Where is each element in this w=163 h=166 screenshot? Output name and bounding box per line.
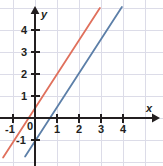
x-tick-label-2: 2 bbox=[76, 124, 82, 135]
y-tick-label-2: 2 bbox=[21, 69, 27, 80]
origin-label: 0 bbox=[27, 121, 33, 132]
y-tick-label-neg1: -1 bbox=[16, 135, 26, 146]
x-tick-label-1: 1 bbox=[54, 124, 60, 135]
x-tick-label-4: 4 bbox=[120, 124, 126, 135]
y-axis-name: y bbox=[41, 9, 47, 20]
y-tick-label-4: 4 bbox=[21, 25, 27, 36]
y-tick-label-3: 3 bbox=[21, 47, 27, 58]
y-tick-label-1: 1 bbox=[21, 91, 27, 102]
x-axis-name: x bbox=[146, 103, 152, 114]
x-tick-label-3: 3 bbox=[98, 124, 104, 135]
coordinate-plane-figure: 4 3 2 1 -1 -1 1 2 3 4 0 y x bbox=[0, 0, 163, 166]
x-tick-label-neg1: -1 bbox=[5, 124, 15, 135]
